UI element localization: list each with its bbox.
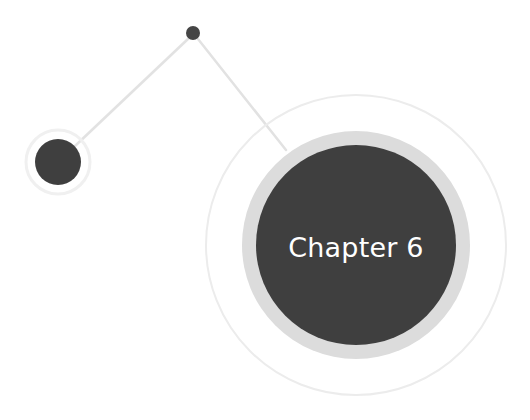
connector-top-to-chapter — [198, 39, 286, 150]
chapter-label: Chapter 6 — [256, 225, 456, 269]
top-dot — [186, 26, 200, 40]
chapter-diagram — [0, 0, 530, 420]
left-dot — [35, 139, 81, 185]
connector-top-to-left — [75, 38, 189, 146]
chapter-title-graphic: Chapter 6 — [0, 0, 530, 420]
